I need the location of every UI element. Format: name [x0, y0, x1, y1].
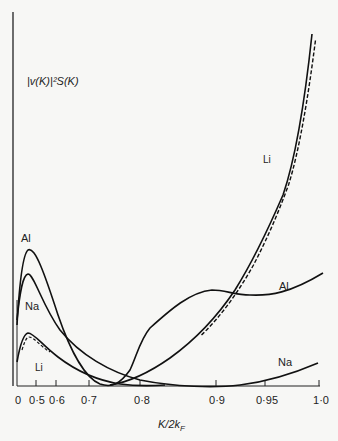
chart-figure: |v(K)|²S(K) Al Na Li Li Al Na 0 0·5 0·6 …: [0, 0, 338, 441]
x-tick-label: 0·6: [49, 394, 65, 406]
label-na-right: Na: [278, 356, 292, 368]
series-na-curve: [17, 274, 318, 387]
x-tick-label: 0: [15, 394, 21, 406]
x-tick-label: 0·95: [256, 394, 278, 406]
series-li-low-dashed-curve: [22, 337, 50, 352]
label-al-right: Al: [279, 280, 289, 292]
x-axis-label-main: K/2k: [158, 418, 180, 430]
chart-plot-area: [0, 0, 338, 441]
label-li-right: Li: [263, 154, 271, 165]
x-tick-label: 1·0: [313, 394, 329, 406]
x-tick-label: 0·5: [29, 394, 45, 406]
x-tick-label: 0·7: [81, 394, 97, 406]
x-axis-label: K/2kF: [158, 418, 185, 433]
y-axis-label: |v(K)|²S(K): [27, 75, 79, 87]
x-tick-label: 0·8: [134, 394, 150, 406]
label-na-left: Na: [25, 300, 39, 312]
x-tick-label: 0·9: [209, 394, 225, 406]
label-li-left: Li: [35, 362, 43, 373]
label-al-left: Al: [21, 232, 31, 244]
series-li-curve: [110, 34, 312, 385]
x-axis-label-subscript: F: [180, 424, 185, 433]
